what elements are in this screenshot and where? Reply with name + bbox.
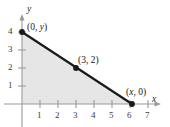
x-tick-label-3: 3 [73,111,78,120]
x-tick-label-1: 1 [37,111,42,120]
annotation-x-intercept-suffix: , 0) [133,87,146,97]
y-tick-label-2: 2 [8,63,13,72]
x-axis-label: x [152,95,156,105]
y-axis-arrow [19,14,24,21]
point-x-intercept [129,101,135,107]
annotation-y-intercept-suffix: ) [44,22,47,32]
annotation-y-intercept-prefix: (0, [27,22,40,32]
x-tick-label-6: 6 [127,111,132,120]
x-tick-label-4: 4 [91,111,96,120]
coordinate-plane-figure: y x 4 3 2 1 1 2 3 4 5 6 7 (0, y) (3, 2) … [0,0,170,127]
annotation-midpoint: (3, 2) [78,56,99,66]
point-midpoint [73,65,79,71]
y-tick-label-1: 1 [8,81,13,90]
annotation-y-intercept: (0, y) [27,23,47,33]
x-tick-label-7: 7 [145,111,150,120]
y-tick-label-4: 4 [8,27,13,36]
x-tick-label-5: 5 [109,111,114,120]
y-axis-label: y [27,5,31,15]
x-tick-label-2: 2 [55,111,60,120]
annotation-x-intercept: (x, 0) [126,88,146,98]
point-y-intercept [19,29,25,35]
y-tick-label-3: 3 [8,45,13,54]
